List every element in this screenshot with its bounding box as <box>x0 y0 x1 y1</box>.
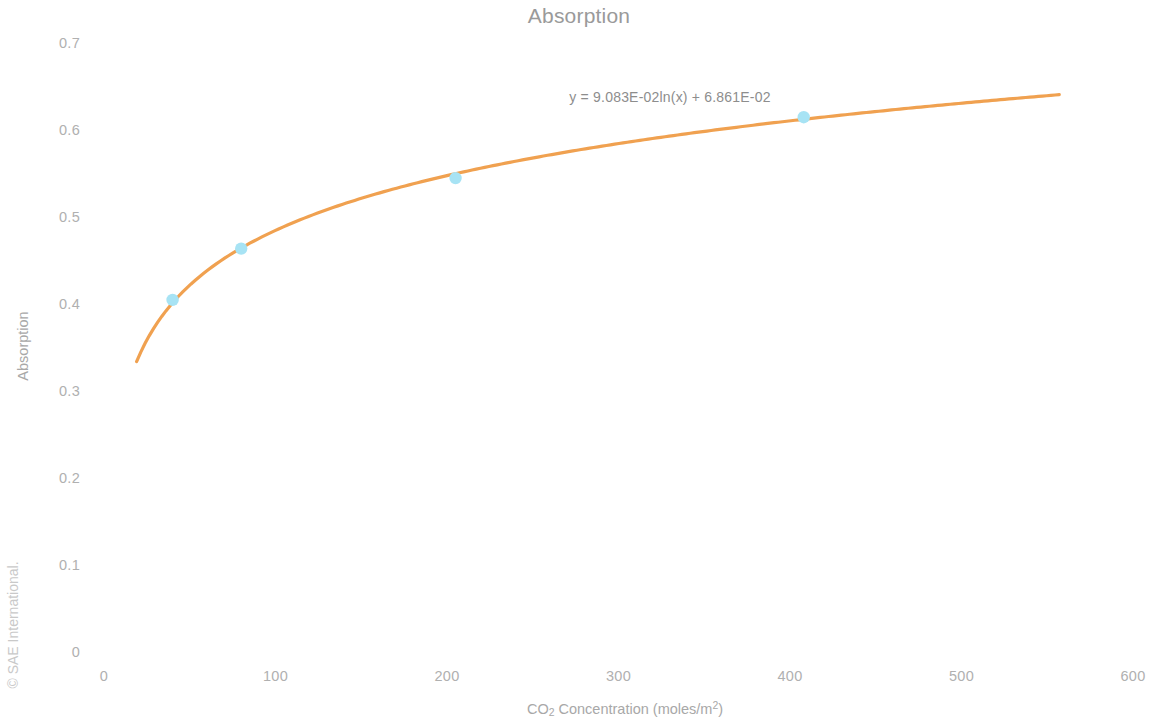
data-point-marker <box>235 242 247 254</box>
plot-area <box>0 0 1158 727</box>
data-point-marker <box>798 111 810 123</box>
trendline-path <box>137 95 1060 362</box>
data-point-marker <box>449 172 461 184</box>
data-point-markers <box>166 111 810 306</box>
data-point-marker <box>166 294 178 306</box>
absorption-chart-figure: Absorption y = 9.083E-02ln(x) + 6.861E-0… <box>0 0 1158 727</box>
